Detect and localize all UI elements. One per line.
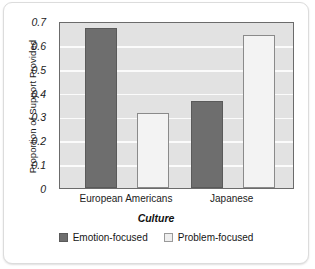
legend-label: Problem-focused [178,232,254,243]
legend-item: Emotion-focused [59,232,148,243]
legend-item: Problem-focused [164,232,254,243]
chart-card: Proportion of Support Provided 0.70.60.5… [3,2,309,264]
plot-area [59,22,294,189]
legend: Emotion-focusedProblem-focused [4,232,308,243]
bar [85,28,117,188]
legend-label: Emotion-focused [73,232,148,243]
y-tick-label: 0.7 [12,16,46,28]
x-category-label: Japanese [210,193,253,204]
bar [137,113,169,188]
y-tick-label: 0.3 [12,111,46,123]
y-tick-label: 0 [12,183,46,195]
x-axis-title: Culture [4,212,308,224]
y-tick-label: 0.6 [12,40,46,52]
bar [243,35,275,188]
y-tick-label: 0.4 [12,88,46,100]
y-tick-label: 0.5 [12,64,46,76]
legend-swatch-icon [164,233,173,242]
legend-swatch-icon [59,233,68,242]
y-tick-label: 0.2 [12,135,46,147]
x-category-label: European Americans [80,193,173,204]
y-tick-label: 0.1 [12,159,46,171]
bar [191,101,223,188]
